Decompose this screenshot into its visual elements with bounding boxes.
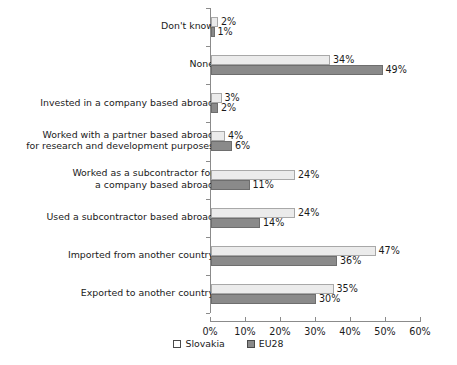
bar-slovakia[interactable]: 34%: [211, 55, 330, 65]
bar-rect: [211, 93, 222, 103]
bar-value-label: 30%: [319, 293, 340, 304]
category-label: Exported to another country: [9, 287, 214, 299]
bar-eu28[interactable]: 14%: [211, 218, 260, 228]
bar-eu28[interactable]: 49%: [211, 65, 383, 75]
x-axis-tick-label: 10%: [225, 326, 265, 337]
x-axis-tick-label: 0%: [190, 326, 230, 337]
x-axis-tick: [280, 317, 281, 322]
bar-eu28[interactable]: 1%: [211, 27, 215, 37]
chart-legend: Slovakia EU28: [0, 338, 457, 349]
x-axis-tick: [420, 317, 421, 322]
bar-rect: [211, 103, 218, 113]
plot-area: Don't know2%1%None34%49%Invested in a co…: [0, 8, 457, 313]
bar-rect: [211, 27, 215, 37]
category-label: Imported from another country: [9, 249, 214, 261]
x-axis-tick: [385, 317, 386, 322]
bar-slovakia[interactable]: 35%: [211, 284, 334, 294]
bar-value-label: 34%: [333, 54, 354, 65]
bar-value-label: 6%: [235, 140, 250, 151]
x-axis-tick: [210, 317, 211, 322]
category-label: Used a subcontractor based abroad: [9, 211, 214, 223]
bar-value-label: 24%: [298, 169, 319, 180]
x-axis-tick-label: 20%: [260, 326, 300, 337]
legend-label-eu28: EU28: [259, 338, 284, 349]
bar-slovakia[interactable]: 3%: [211, 93, 222, 103]
bar-eu28[interactable]: 30%: [211, 294, 316, 304]
bar-eu28[interactable]: 2%: [211, 103, 218, 113]
x-axis-tick-label: 40%: [330, 326, 370, 337]
x-axis-tick-label: 60%: [400, 326, 440, 337]
legend-label-slovakia: Slovakia: [185, 338, 224, 349]
category-label: Worked as a subcontractor for a company …: [9, 167, 214, 190]
bar-group: Exported to another country35%30%: [0, 275, 457, 313]
legend-item-eu28[interactable]: EU28: [247, 338, 284, 349]
bar-group: Worked with a partner based abroad for r…: [0, 122, 457, 160]
bar-rect: [211, 65, 383, 75]
category-label: Invested in a company based abroad: [9, 97, 214, 109]
bar-value-label: 11%: [253, 179, 274, 190]
bar-group: Used a subcontractor based abroad24%14%: [0, 199, 457, 237]
x-axis-tick: [315, 317, 316, 322]
bar-group: Invested in a company based abroad3%2%: [0, 84, 457, 122]
x-axis-tick: [350, 317, 351, 322]
bar-value-label: 47%: [379, 245, 400, 256]
legend-item-slovakia[interactable]: Slovakia: [173, 338, 224, 349]
bar-value-label: 2%: [221, 102, 236, 113]
bar-rect: [211, 131, 225, 141]
category-label: Don't know: [9, 20, 214, 32]
bar-eu28[interactable]: 36%: [211, 256, 337, 266]
bar-rect: [211, 284, 334, 294]
bar-rect: [211, 218, 260, 228]
bar-rect: [211, 55, 330, 65]
legend-swatch-icon-eu28: [247, 340, 255, 348]
bar-value-label: 49%: [386, 64, 407, 75]
category-label: Worked with a partner based abroad for r…: [9, 129, 214, 152]
x-axis-tick: [245, 317, 246, 322]
bar-rect: [211, 141, 232, 151]
bar-value-label: 36%: [340, 255, 361, 266]
bar-group: Don't know2%1%: [0, 8, 457, 46]
y-axis-tick: [206, 313, 210, 314]
bar-group: Imported from another country47%36%: [0, 237, 457, 275]
bar-value-label: 14%: [263, 217, 284, 228]
bar-rect: [211, 256, 337, 266]
bar-value-label: 1%: [218, 26, 233, 37]
bar-value-label: 24%: [298, 207, 319, 218]
category-label: None: [9, 58, 214, 70]
bar-group: None34%49%: [0, 46, 457, 84]
legend-swatch-icon-slovakia: [173, 340, 181, 348]
bar-eu28[interactable]: 11%: [211, 180, 250, 190]
bar-group: Worked as a subcontractor for a company …: [0, 161, 457, 199]
x-axis-tick-label: 50%: [365, 326, 405, 337]
bar-eu28[interactable]: 6%: [211, 141, 232, 151]
bar-chart: Don't know2%1%None34%49%Invested in a co…: [0, 0, 457, 365]
bar-slovakia[interactable]: 4%: [211, 131, 225, 141]
bar-rect: [211, 294, 316, 304]
bar-rect: [211, 180, 250, 190]
x-axis-tick-label: 30%: [295, 326, 335, 337]
